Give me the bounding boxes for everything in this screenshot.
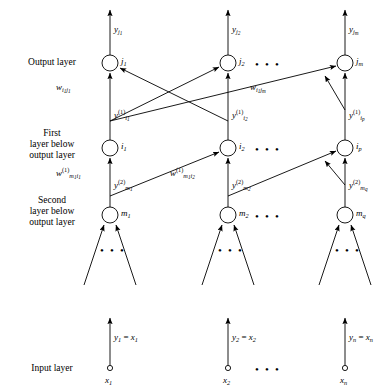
signal-label-y2-mq: y(2)mq xyxy=(349,178,368,193)
neuron-label-j1: j1 xyxy=(121,56,127,67)
signal-label-y-j2: yj2 xyxy=(232,24,240,37)
signal-label-yn-eq-xn: yn = xn xyxy=(349,332,373,343)
input-label-x1: x1 xyxy=(105,375,112,386)
layer-label-second-below: Second layer below output layer xyxy=(8,195,96,228)
input-node-x1 xyxy=(107,365,112,370)
layer-label-second-below-line1: Second xyxy=(8,195,96,206)
ellipsis-fanin-m1: ••• xyxy=(97,240,127,258)
input-signal-arrows xyxy=(110,318,345,365)
ellipsis-second-hidden-layer: ••• xyxy=(252,206,282,224)
output-signal-arrows xyxy=(110,10,345,55)
layer-label-input: Input layer xyxy=(8,363,96,374)
weight-label-w1-m1i1: w(1)m1i1 xyxy=(56,166,81,181)
vertical-links-second-to-first xyxy=(110,158,345,207)
layer-label-second-below-line3: output layer xyxy=(8,217,96,228)
cross-links-first-to-output xyxy=(110,66,345,121)
signal-label-y1-ip: y(1)ip xyxy=(349,108,365,123)
neuron-j1 xyxy=(102,55,118,71)
layer-label-first-below-line3: output layer xyxy=(8,150,96,161)
neuron-i2 xyxy=(220,140,236,156)
layer-label-first-below: First layer below output layer xyxy=(8,128,96,161)
layer-label-output: Output layer xyxy=(8,57,96,68)
ellipsis-fanin-mq: ••• xyxy=(332,240,362,258)
layer-label-first-below-line2: layer below xyxy=(8,139,96,150)
layer-label-second-below-line2: layer below xyxy=(8,206,96,217)
input-node-xn xyxy=(342,365,347,370)
neuron-jm xyxy=(337,55,353,71)
signal-label-y1-eq-x1: y1 = x1 xyxy=(114,332,138,343)
neuron-j2 xyxy=(220,55,236,71)
input-label-x2: x2 xyxy=(223,375,230,386)
neuron-i1 xyxy=(102,140,118,156)
weight-label-w1-m1i2: w(1)m1i2 xyxy=(170,166,195,181)
neuron-label-mq: mq xyxy=(356,208,366,219)
neuron-label-i2: i2 xyxy=(239,141,245,152)
layer-label-first-below-line1: First xyxy=(8,128,96,139)
neuron-m1 xyxy=(102,207,118,223)
signal-label-y1-i2: y(1)i2 xyxy=(232,108,248,123)
weight-label-w-i1j1: wi1j1 xyxy=(56,82,71,95)
neuron-label-m1: m1 xyxy=(121,208,131,219)
neuron-ip xyxy=(337,140,353,156)
neuron-label-j2: j2 xyxy=(239,56,245,67)
neuron-m2 xyxy=(220,207,236,223)
ellipsis-input-layer: ••• xyxy=(252,359,282,377)
ellipsis-first-hidden-layer: ••• xyxy=(252,139,282,157)
ellipsis-output-layer: ••• xyxy=(252,54,282,72)
signal-label-y1-i1: y(1)i1 xyxy=(114,108,130,123)
signal-label-y2-m2: y(2)m2 xyxy=(232,178,251,193)
input-label-xn: xn xyxy=(340,375,347,386)
vertical-links-first-to-output xyxy=(110,73,345,140)
weight-label-w-i1jm: wi1jm xyxy=(250,82,266,95)
input-node-x2 xyxy=(225,365,230,370)
neuron-mq xyxy=(337,207,353,223)
signal-label-y-j1: yj1 xyxy=(114,24,122,37)
signal-label-y-jm: yjm xyxy=(349,24,359,37)
neuron-label-jm: jm xyxy=(356,56,363,67)
signal-label-y2-eq-x2: y2 = x2 xyxy=(232,332,256,343)
neuron-label-m2: m2 xyxy=(239,208,249,219)
ellipsis-fanin-m2: ••• xyxy=(215,240,245,258)
neuron-label-ip: ip xyxy=(356,141,362,152)
cross-links-second-to-first xyxy=(110,151,345,196)
signal-label-y2-m1: y(2)m1 xyxy=(114,178,133,193)
neuron-label-i1: i1 xyxy=(121,141,127,152)
